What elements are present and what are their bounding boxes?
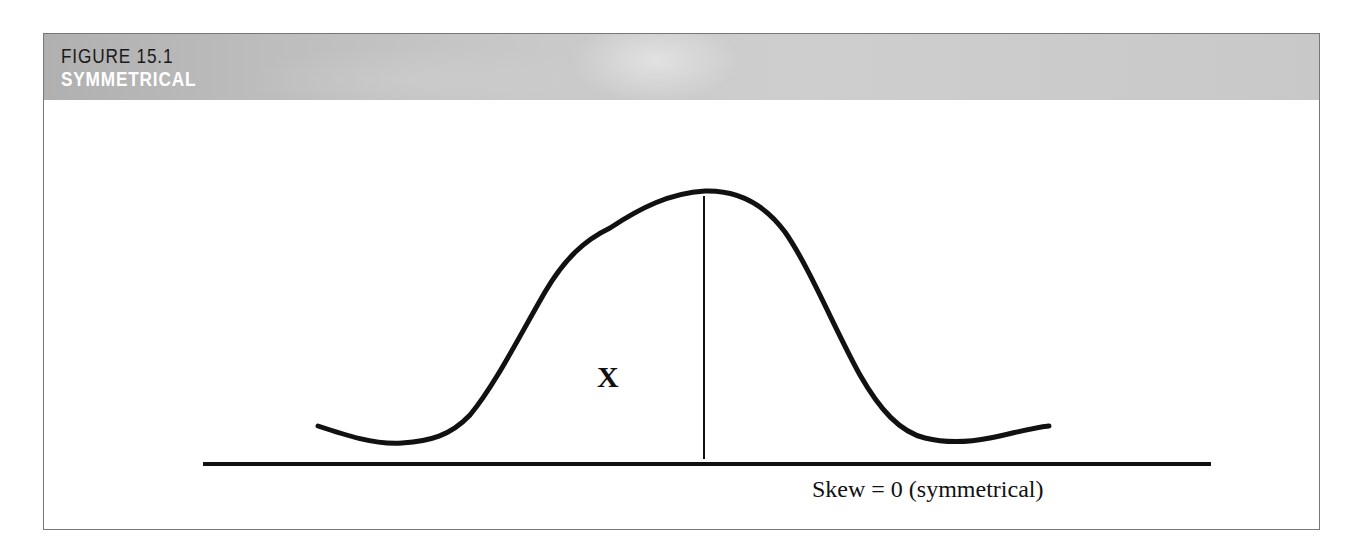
skew-caption: Skew = 0 (symmetrical)	[812, 476, 1043, 503]
distribution-diagram	[0, 0, 1360, 558]
curve-label: X	[597, 360, 619, 394]
distribution-curve	[318, 191, 1049, 443]
